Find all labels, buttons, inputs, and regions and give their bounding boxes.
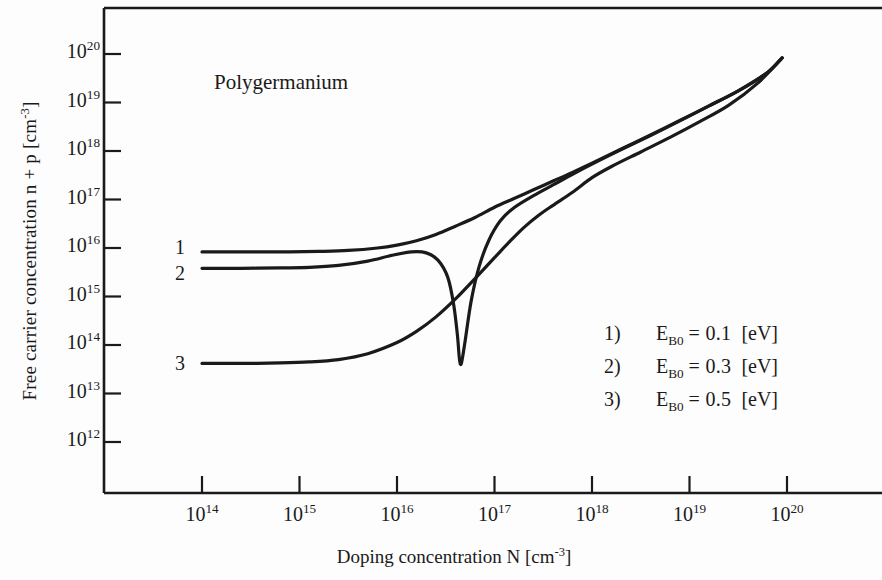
legend-row: 1) EB0 = 0.1 [eV]	[604, 322, 778, 355]
legend-row: 3) EB0 = 0.5 [eV]	[604, 388, 778, 421]
legend: 1) EB0 = 0.1 [eV] 2) EB0 = 0.3 [eV] 3) E…	[604, 322, 778, 421]
plot-title: Polygermanium	[214, 70, 348, 95]
x-tick-label: 1016	[352, 503, 442, 526]
legend-entry-text: EB0 = 0.3 [eV]	[656, 355, 778, 378]
legend-row: 2) EB0 = 0.3 [eV]	[604, 355, 778, 388]
plot-canvas	[0, 0, 882, 580]
curve-2	[202, 58, 782, 365]
legend-entry-text: EB0 = 0.5 [eV]	[656, 388, 778, 411]
curve-label-2: 2	[175, 262, 185, 285]
legend-index: 1)	[604, 322, 656, 345]
curve-label-3: 3	[175, 352, 185, 375]
curve-3	[202, 58, 782, 364]
legend-index: 3)	[604, 388, 656, 411]
x-tick-label: 1015	[255, 503, 345, 526]
x-axis-title: Doping concentration N [cm-3]	[104, 546, 804, 568]
x-tick-label: 1019	[645, 503, 735, 526]
x-tick-label: 1018	[547, 503, 637, 526]
legend-entry-text: EB0 = 0.1 [eV]	[656, 322, 778, 345]
x-tick-label: 1017	[450, 503, 540, 526]
x-tick-label: 1014	[157, 503, 247, 526]
y-axis-title: Free carrier concentration n + p [cm-3]	[19, 21, 41, 481]
x-tick-label: 1020	[742, 503, 832, 526]
legend-index: 2)	[604, 355, 656, 378]
data-curves	[202, 58, 782, 365]
chart-figure: 102010191018101710161015101410131012 101…	[0, 0, 882, 580]
y-tick-labels: 102010191018101710161015101410131012	[0, 0, 100, 580]
curve-label-1: 1	[175, 236, 185, 259]
